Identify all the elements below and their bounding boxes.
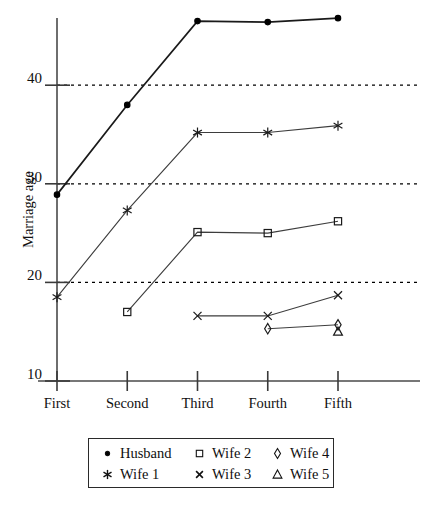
legend-item-wife-4[interactable]: Wife 4 [271, 446, 347, 461]
datapoint-husband-2 [195, 18, 200, 23]
legend-label-wife-5: Wife 5 [290, 467, 329, 482]
legend-item-wife-2[interactable]: Wife 2 [193, 446, 271, 461]
legend-label-husband: Husband [120, 446, 172, 461]
series-line-wife-4 [268, 325, 338, 329]
y-tick-label-10: 10 [27, 366, 42, 382]
gridlines-group [57, 85, 420, 282]
chart-plot-area: 10203040 FirstSecondThirdFourthFifth [0, 0, 425, 506]
x-axis-label-fifth: Fifth [324, 395, 353, 411]
open-square-icon [193, 447, 206, 460]
x-axis-label-first: First [44, 395, 71, 411]
marriage-age-chart-figure: Marriage age 10203040 FirstSecondThirdFo… [0, 0, 425, 506]
series-line-wife-1 [57, 126, 338, 298]
x-axis-label-second: Second [106, 395, 149, 411]
legend-label-wife-1: Wife 1 [120, 467, 159, 482]
legend-label-wife-2: Wife 2 [212, 446, 251, 461]
filled-circle-icon [101, 447, 114, 460]
datapoint-husband-1 [125, 102, 130, 107]
chart-legend: HusbandWife 2Wife 4Wife 1Wife 3Wife 5 [88, 438, 334, 488]
datapoint-wife-3-2 [334, 291, 342, 299]
series-markers-group [53, 15, 343, 335]
legend-label-wife-3: Wife 3 [212, 467, 251, 482]
cross-x-icon [193, 468, 206, 481]
x-axis-label-fourth: Fourth [248, 395, 287, 411]
y-tick-label-30: 30 [27, 169, 42, 185]
datapoint-husband-3 [265, 19, 270, 24]
legend-label-wife-4: Wife 4 [290, 446, 329, 461]
series-line-wife-2 [127, 221, 338, 312]
asterisk-icon [101, 468, 114, 481]
legend-item-husband[interactable]: Husband [101, 446, 193, 461]
x-axis-label-third: Third [181, 395, 214, 411]
datapoint-husband-4 [335, 15, 340, 20]
open-triangle-icon [271, 468, 284, 481]
open-diamond-icon [271, 447, 284, 460]
y-tick-group: 10203040 [27, 70, 70, 382]
legend-item-wife-5[interactable]: Wife 5 [271, 467, 347, 482]
series-line-wife-3 [198, 295, 339, 316]
y-tick-label-40: 40 [27, 70, 42, 86]
axes-group [38, 18, 420, 381]
category-labels-group: FirstSecondThirdFourthFifth [44, 395, 353, 411]
series-line-husband [57, 18, 338, 194]
datapoint-husband-0 [54, 192, 59, 197]
legend-item-wife-3[interactable]: Wife 3 [193, 467, 271, 482]
legend-item-wife-1[interactable]: Wife 1 [101, 467, 193, 482]
y-tick-label-20: 20 [27, 267, 42, 283]
